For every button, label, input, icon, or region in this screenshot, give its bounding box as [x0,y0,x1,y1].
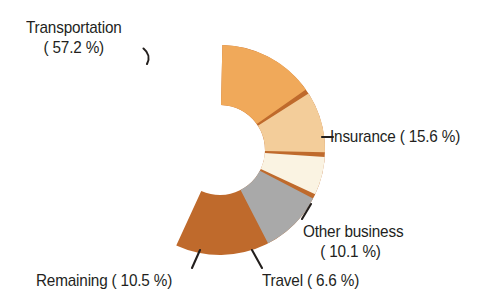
leader-line-travel [252,250,262,268]
slice-label-insurance-text: Insurance ( 15.6 %) [330,127,460,146]
slice-label-other-business: Other business ( 10.1 %) [303,222,403,262]
leader-line-remaining [192,250,200,268]
slice-label-travel-text: Travel ( 6.6 %) [262,271,359,290]
slice-label-travel: Travel ( 6.6 %) [262,271,359,291]
slice-label-insurance: Insurance ( 15.6 %) [330,127,460,147]
slice-label-other-business-value: ( 10.1 %) [303,242,403,262]
slice-label-transportation-value: ( 57.2 %) [26,38,122,58]
slice-label-transportation-name: Transportation [26,18,122,37]
slice-label-transportation: Transportation ( 57.2 %) [26,18,122,58]
slice-label-other-business-name: Other business [303,222,403,241]
slice-label-remaining-text: Remaining ( 10.5 %) [36,271,172,290]
slice-label-remaining: Remaining ( 10.5 %) [36,271,172,291]
chart-page: Transportation ( 57.2 %) Insurance ( 15.… [0,0,497,307]
leader-line-transportation [144,49,149,65]
